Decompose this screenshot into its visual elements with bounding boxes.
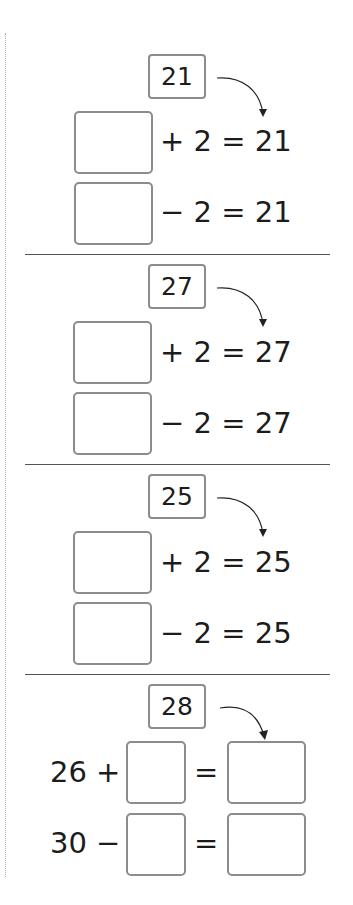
equation-text: − 2 = 21 bbox=[160, 198, 292, 227]
given-number-box: 25 bbox=[148, 474, 206, 519]
given-number: 27 bbox=[161, 272, 193, 301]
curved-arrow-icon bbox=[212, 490, 272, 542]
section-divider bbox=[25, 254, 330, 255]
equation-text: − 2 = 27 bbox=[160, 409, 292, 438]
answer-box[interactable] bbox=[73, 602, 152, 665]
sum-answer-box[interactable] bbox=[227, 741, 306, 804]
answer-box[interactable] bbox=[73, 321, 152, 384]
equation-lead-text: 26 + bbox=[50, 758, 120, 787]
addend-answer-box[interactable] bbox=[126, 741, 186, 804]
answer-box[interactable] bbox=[74, 182, 153, 245]
margin-dotted-line bbox=[5, 33, 6, 877]
subtrahend-answer-box[interactable] bbox=[126, 813, 186, 876]
equation-text: + 2 = 27 bbox=[160, 338, 292, 367]
equation-text: − 2 = 25 bbox=[160, 619, 292, 648]
section-divider bbox=[25, 674, 330, 675]
curved-arrow-icon bbox=[212, 280, 272, 332]
equation-lead-text: 30 − bbox=[50, 829, 120, 858]
curved-arrow-icon bbox=[212, 70, 272, 122]
difference-answer-box[interactable] bbox=[227, 813, 306, 876]
equals-sign: = bbox=[194, 758, 218, 787]
equals-sign: = bbox=[194, 829, 218, 858]
given-number-box: 27 bbox=[148, 264, 206, 309]
curved-arrow-icon bbox=[214, 700, 274, 746]
section-divider bbox=[25, 464, 330, 465]
given-number: 25 bbox=[161, 482, 193, 511]
equation-text: + 2 = 25 bbox=[160, 548, 292, 577]
answer-box[interactable] bbox=[74, 111, 153, 174]
given-number-box: 28 bbox=[148, 684, 206, 729]
answer-box[interactable] bbox=[73, 531, 152, 594]
equation-text: + 2 = 21 bbox=[160, 127, 292, 156]
given-number: 21 bbox=[161, 62, 193, 91]
answer-box[interactable] bbox=[73, 392, 152, 455]
given-number-box: 21 bbox=[148, 54, 206, 99]
given-number: 28 bbox=[161, 692, 193, 721]
